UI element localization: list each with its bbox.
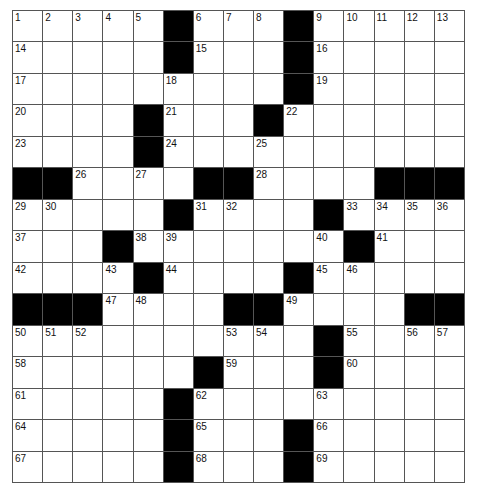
grid-cell[interactable]: 51	[43, 326, 73, 357]
grid-cell[interactable]	[224, 137, 254, 168]
grid-cell[interactable]	[435, 105, 465, 136]
grid-cell[interactable]	[73, 42, 103, 73]
grid-cell[interactable]	[134, 420, 164, 451]
grid-cell[interactable]	[43, 263, 73, 294]
grid-cell[interactable]: 67	[13, 452, 43, 483]
grid-cell[interactable]	[254, 420, 284, 451]
grid-cell[interactable]: 48	[134, 294, 164, 325]
grid-cell[interactable]	[73, 74, 103, 105]
grid-cell[interactable]	[224, 452, 254, 483]
grid-cell[interactable]	[224, 389, 254, 420]
grid-cell[interactable]	[73, 420, 103, 451]
grid-cell[interactable]: 22	[284, 105, 314, 136]
grid-cell[interactable]	[164, 357, 194, 388]
grid-cell[interactable]	[194, 105, 224, 136]
grid-cell[interactable]: 59	[224, 357, 254, 388]
grid-cell[interactable]	[43, 420, 73, 451]
grid-cell[interactable]	[73, 200, 103, 231]
grid-cell[interactable]	[134, 326, 164, 357]
grid-cell[interactable]	[405, 357, 435, 388]
grid-cell[interactable]: 69	[314, 452, 344, 483]
grid-cell[interactable]	[73, 357, 103, 388]
grid-cell[interactable]: 50	[13, 326, 43, 357]
grid-cell[interactable]: 11	[375, 11, 405, 42]
grid-cell[interactable]: 40	[314, 231, 344, 262]
grid-cell[interactable]	[405, 105, 435, 136]
grid-cell[interactable]	[224, 420, 254, 451]
grid-cell[interactable]: 60	[344, 357, 374, 388]
grid-cell[interactable]	[73, 452, 103, 483]
grid-cell[interactable]: 44	[164, 263, 194, 294]
grid-cell[interactable]	[405, 74, 435, 105]
grid-cell[interactable]	[134, 389, 164, 420]
grid-cell[interactable]	[435, 357, 465, 388]
grid-cell[interactable]: 33	[344, 200, 374, 231]
grid-cell[interactable]	[43, 452, 73, 483]
grid-cell[interactable]	[344, 168, 374, 199]
grid-cell[interactable]	[405, 231, 435, 262]
grid-cell[interactable]	[194, 263, 224, 294]
grid-cell[interactable]: 4	[103, 11, 133, 42]
grid-cell[interactable]: 66	[314, 420, 344, 451]
grid-cell[interactable]	[375, 357, 405, 388]
grid-cell[interactable]	[375, 263, 405, 294]
grid-cell[interactable]: 34	[375, 200, 405, 231]
grid-cell[interactable]: 13	[435, 11, 465, 42]
grid-cell[interactable]	[73, 263, 103, 294]
grid-cell[interactable]: 25	[254, 137, 284, 168]
grid-cell[interactable]: 14	[13, 42, 43, 73]
grid-cell[interactable]	[224, 105, 254, 136]
grid-cell[interactable]: 62	[194, 389, 224, 420]
grid-cell[interactable]	[284, 200, 314, 231]
grid-cell[interactable]	[224, 74, 254, 105]
grid-cell[interactable]	[375, 105, 405, 136]
grid-cell[interactable]: 55	[344, 326, 374, 357]
grid-cell[interactable]: 37	[13, 231, 43, 262]
grid-cell[interactable]: 1	[13, 11, 43, 42]
grid-cell[interactable]: 56	[405, 326, 435, 357]
grid-cell[interactable]: 23	[13, 137, 43, 168]
grid-cell[interactable]	[375, 74, 405, 105]
grid-cell[interactable]	[254, 263, 284, 294]
grid-cell[interactable]: 18	[164, 74, 194, 105]
grid-cell[interactable]: 17	[13, 74, 43, 105]
grid-cell[interactable]	[224, 263, 254, 294]
grid-cell[interactable]: 68	[194, 452, 224, 483]
grid-cell[interactable]: 39	[164, 231, 194, 262]
grid-cell[interactable]: 2	[43, 11, 73, 42]
grid-cell[interactable]	[103, 74, 133, 105]
grid-cell[interactable]: 8	[254, 11, 284, 42]
grid-cell[interactable]	[284, 168, 314, 199]
grid-cell[interactable]: 38	[134, 231, 164, 262]
grid-cell[interactable]	[254, 200, 284, 231]
grid-cell[interactable]	[254, 357, 284, 388]
grid-cell[interactable]	[43, 74, 73, 105]
grid-cell[interactable]	[284, 326, 314, 357]
grid-cell[interactable]: 29	[13, 200, 43, 231]
grid-cell[interactable]: 32	[224, 200, 254, 231]
grid-cell[interactable]	[194, 74, 224, 105]
grid-cell[interactable]	[344, 137, 374, 168]
grid-cell[interactable]: 19	[314, 74, 344, 105]
grid-cell[interactable]	[103, 42, 133, 73]
grid-cell[interactable]	[405, 137, 435, 168]
grid-cell[interactable]	[435, 389, 465, 420]
grid-cell[interactable]	[435, 74, 465, 105]
grid-cell[interactable]: 21	[164, 105, 194, 136]
grid-cell[interactable]	[254, 42, 284, 73]
grid-cell[interactable]	[435, 42, 465, 73]
grid-cell[interactable]	[254, 452, 284, 483]
grid-cell[interactable]	[435, 263, 465, 294]
grid-cell[interactable]: 28	[254, 168, 284, 199]
grid-cell[interactable]	[194, 294, 224, 325]
grid-cell[interactable]: 10	[344, 11, 374, 42]
grid-cell[interactable]: 54	[254, 326, 284, 357]
grid-cell[interactable]	[254, 389, 284, 420]
grid-cell[interactable]: 63	[314, 389, 344, 420]
grid-cell[interactable]	[344, 420, 374, 451]
grid-cell[interactable]	[344, 389, 374, 420]
grid-cell[interactable]: 31	[194, 200, 224, 231]
grid-cell[interactable]	[405, 263, 435, 294]
grid-cell[interactable]	[314, 137, 344, 168]
grid-cell[interactable]	[43, 231, 73, 262]
